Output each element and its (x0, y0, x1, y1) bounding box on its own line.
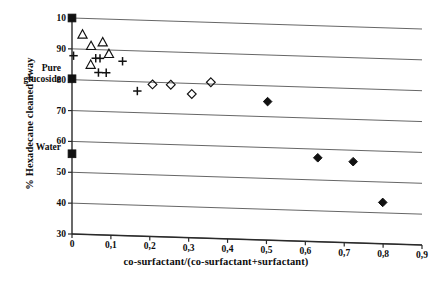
grid-lines (72, 18, 422, 245)
x-axis-title: co-surfactant/(co-surfactant+surfactant) (0, 256, 432, 267)
y-tick-label: 40 (40, 198, 66, 208)
axis-lines (72, 18, 422, 245)
data-point-open-diamond (187, 90, 196, 99)
x-tick-label: 0,6 (292, 246, 318, 256)
data-point-open-diamond (148, 80, 157, 89)
y-tick-label: 60 (40, 136, 66, 146)
x-tick-label: 0,2 (137, 241, 163, 251)
data-point-plus (94, 68, 102, 76)
x-tick-label: 0,3 (176, 243, 202, 253)
data-markers (68, 14, 387, 207)
data-point-filled-square (68, 14, 76, 22)
x-tick-label: 0,7 (331, 248, 357, 258)
data-point-filled-diamond (313, 153, 322, 162)
y-tick-label: 90 (40, 44, 66, 54)
data-point-plus (118, 57, 126, 65)
data-point-open-diamond (206, 78, 215, 87)
data-point-open-triangle (98, 38, 107, 46)
x-tick-label: 0,8 (370, 249, 396, 259)
plot-area: 3040506070809010 00,10,20,30,40,50,60,70… (72, 18, 422, 234)
data-point-open-triangle (86, 41, 95, 49)
y-tick-label: 10 (40, 13, 66, 23)
plot-svg (72, 18, 422, 234)
y-axis-title: % Hexadecane cleaned away (24, 9, 35, 239)
data-point-filled-diamond (378, 198, 387, 207)
data-point-plus (69, 51, 77, 59)
axis-tick-marks (68, 18, 422, 249)
x-tick-label: 0,1 (98, 240, 124, 250)
data-point-filled-square (68, 150, 76, 158)
annotation-pure-glucoside-line1: Pure (24, 63, 61, 74)
data-point-plus (96, 54, 104, 62)
data-point-filled-square (68, 75, 76, 83)
data-point-plus (133, 87, 141, 95)
x-tick-label: 0,5 (253, 245, 279, 255)
x-tick-label: 0 (59, 239, 85, 249)
data-point-filled-diamond (263, 97, 272, 106)
x-tick-label: 0,4 (215, 244, 241, 254)
y-tick-label: 80 (40, 75, 66, 85)
data-point-open-triangle (86, 60, 95, 68)
figure-container: % Hexadecane cleaned away co-surfactant/… (0, 0, 432, 286)
data-point-filled-diamond (349, 157, 358, 166)
y-tick-label: 50 (40, 167, 66, 177)
y-tick-label: 70 (40, 106, 66, 116)
data-point-plus (102, 69, 110, 77)
data-point-open-diamond (166, 80, 175, 89)
y-tick-label: 30 (40, 229, 66, 239)
x-tick-label: 0,9 (409, 250, 432, 260)
data-point-open-triangle (78, 30, 87, 38)
